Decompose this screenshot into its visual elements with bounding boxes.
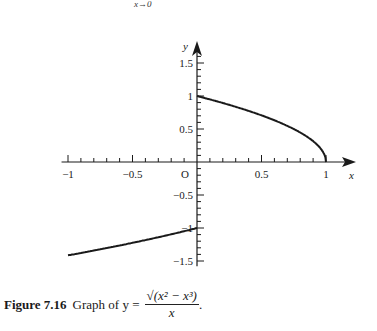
svg-text:y: y: [182, 40, 188, 52]
svg-text:0.5: 0.5: [255, 168, 269, 180]
caption-period: .: [199, 297, 202, 313]
fraction-numerator: √(x² − x³): [145, 288, 199, 305]
axes: [62, 41, 356, 266]
svg-text:1: 1: [188, 90, 194, 102]
svg-text:−1: −1: [62, 168, 74, 180]
svg-text:0.5: 0.5: [179, 123, 193, 135]
figure-label: Figure 7.16: [4, 297, 67, 313]
caption-text: Graph of y =: [73, 297, 140, 313]
svg-text:O: O: [181, 168, 189, 180]
fraction-denominator: x: [169, 305, 175, 321]
svg-text:1: 1: [323, 168, 329, 180]
svg-text:−1.5: −1.5: [173, 255, 193, 267]
axis-labels: −1−0.50.511.510.5−0.5−1−1.5Oxy: [62, 40, 354, 267]
svg-text:−0.5: −0.5: [173, 189, 193, 201]
svg-text:−0.5: −0.5: [123, 168, 143, 180]
function-graph: −1−0.50.511.510.5−0.5−1−1.5Oxy: [0, 0, 377, 290]
svg-text:1.5: 1.5: [179, 57, 193, 69]
caption-fraction: √(x² − x³) x: [145, 288, 199, 321]
svg-text:x: x: [348, 169, 354, 181]
figure-caption: Figure 7.16 Graph of y = √(x² − x³) x .: [4, 288, 202, 321]
